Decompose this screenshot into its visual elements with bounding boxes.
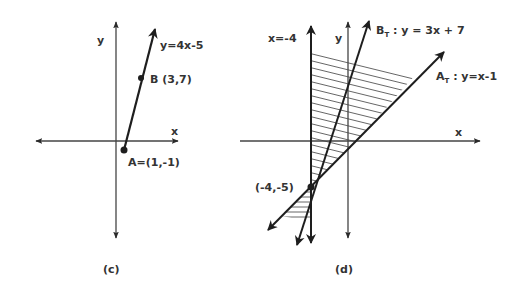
point-A	[121, 147, 128, 154]
line-y-4x-5	[124, 29, 155, 150]
line-A-T-label: AT : y=x-1	[436, 70, 497, 85]
intersection-point	[308, 184, 315, 191]
x-axis-label-c: x	[171, 125, 178, 138]
point-A-label: A=(1,-1)	[128, 156, 180, 169]
intersection-label: (-4,-5)	[255, 181, 294, 194]
x-axis-label-d: x	[455, 126, 462, 139]
point-B	[138, 75, 144, 81]
line-x-minus-4-label: x=-4	[268, 32, 297, 45]
line-B-T	[297, 21, 369, 245]
shaded-region-upper	[300, 44, 430, 209]
panel-c: x y y=4x-5 B (3,7) A=(1,-1) (c)	[36, 22, 203, 276]
caption-d: (d)	[335, 263, 353, 276]
caption-c: (c)	[103, 263, 120, 276]
figure: x y y=4x-5 B (3,7) A=(1,-1) (c)	[0, 0, 517, 296]
y-axis-label-c: y	[97, 34, 104, 47]
point-B-label: B (3,7)	[150, 73, 192, 86]
equation-label-c: y=4x-5	[160, 39, 203, 52]
line-B-T-label: BT : y = 3x + 7	[376, 24, 465, 39]
panel-d: x y x=-4 BT : y = 3x + 7 AT : y=x-1 (-4,…	[240, 21, 497, 276]
y-axis-label-d: y	[335, 32, 342, 45]
